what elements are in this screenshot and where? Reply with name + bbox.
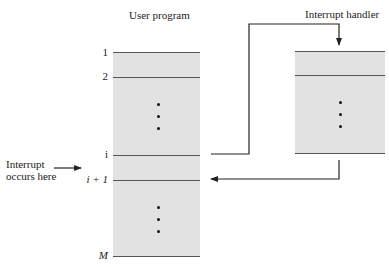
return-arrow-icon	[211, 160, 339, 179]
arrows-layer	[0, 0, 389, 267]
jump-to-handler-arrow-icon	[211, 24, 339, 154]
